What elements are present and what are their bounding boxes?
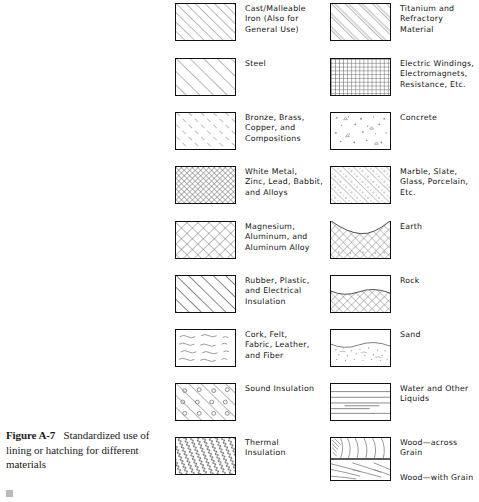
- legend-row: Thermal Insulation: [175, 437, 286, 475]
- swatch-label: Sound Insulation: [245, 383, 314, 394]
- swatch-steel: [175, 58, 236, 96]
- swatch-cork-felt-fabric: [175, 329, 236, 367]
- swatch-label: Marble, Slate, Glass, Porcelain, Etc.: [400, 166, 468, 198]
- swatch-magnesium-aluminum: [175, 221, 236, 259]
- swatch-label: Titanium and Refractory Material: [400, 3, 454, 35]
- legend-row: Sand: [330, 329, 421, 367]
- swatch-label: Electric Windings, Electromagnets, Resis…: [400, 58, 474, 90]
- swatch-label: Earth: [400, 221, 422, 232]
- swatch-label: White Metal, Zinc, Lead, Babbit, and All…: [245, 166, 323, 198]
- swatch-label: Bronze, Brass, Copper, and Compositions: [245, 112, 304, 144]
- legend-row: Earth: [330, 221, 422, 259]
- legend-row: Wood—across Grain Wood—with Grain: [330, 437, 479, 483]
- legend-row: White Metal, Zinc, Lead, Babbit, and All…: [175, 166, 323, 204]
- swatch-thermal-insulation: [175, 437, 236, 475]
- legend-row: Cast/Malleable Iron (Also for General Us…: [175, 3, 306, 41]
- wood-label-stack: Wood—across Grain Wood—with Grain: [400, 437, 479, 483]
- swatch-label: Cast/Malleable Iron (Also for General Us…: [245, 3, 306, 35]
- figure-number: Figure A-7: [6, 429, 55, 441]
- swatch-label: Thermal Insulation: [245, 437, 286, 459]
- swatch-label: Rubber, Plastic, and Electrical Insulati…: [245, 275, 310, 307]
- swatch-wood-grain: [330, 437, 391, 481]
- legend-row: Bronze, Brass, Copper, and Compositions: [175, 112, 304, 150]
- legend-row: Magnesium, Aluminum, and Aluminum Alloy: [175, 221, 310, 259]
- figure-body: Cast/Malleable Iron (Also for General Us…: [0, 0, 479, 502]
- page-corner-mark: [6, 490, 13, 497]
- swatch-label: Water and Other Liquids: [400, 383, 469, 405]
- legend-row: Rubber, Plastic, and Electrical Insulati…: [175, 275, 310, 313]
- swatch-bronze-brass-copper: [175, 112, 236, 150]
- swatch-label: Concrete: [400, 112, 437, 123]
- swatch-label: Steel: [245, 58, 266, 69]
- swatch-label: Magnesium, Aluminum, and Aluminum Alloy: [245, 221, 310, 253]
- legend-row: Electric Windings, Electromagnets, Resis…: [330, 58, 474, 96]
- legend-row: Water and Other Liquids: [330, 383, 469, 421]
- legend-row: Titanium and Refractory Material: [330, 3, 454, 41]
- swatch-marble-slate-glass: [330, 166, 391, 204]
- legend-row: Marble, Slate, Glass, Porcelain, Etc.: [330, 166, 468, 204]
- figure-caption: Figure A-7 Standardized use of lining or…: [6, 428, 168, 472]
- swatch-label-wood-across: Wood—across Grain: [400, 437, 479, 459]
- swatch-concrete: [330, 112, 391, 150]
- swatch-cast-malleable-iron: [175, 3, 236, 41]
- swatch-electric-windings: [330, 58, 391, 96]
- swatch-sound-insulation: [175, 383, 236, 421]
- swatch-label: Cork, Felt, Fabric, Leather, and Fiber: [245, 329, 309, 361]
- legend-row: Cork, Felt, Fabric, Leather, and Fiber: [175, 329, 309, 367]
- legend-row: Sound Insulation: [175, 383, 314, 421]
- swatch-white-metal-zinc-lead: [175, 166, 236, 204]
- swatch-water-and-liquids: [330, 383, 391, 421]
- swatch-rock: [330, 275, 391, 313]
- swatch-sand: [330, 329, 391, 367]
- swatch-label-wood-with: Wood—with Grain: [400, 472, 479, 483]
- swatch-earth: [330, 221, 391, 259]
- swatch-label: Rock: [400, 275, 420, 286]
- legend-row: Concrete: [330, 112, 437, 150]
- legend-row: Steel: [175, 58, 266, 96]
- legend-row: Rock: [330, 275, 420, 313]
- swatch-titanium-refractory: [330, 3, 391, 41]
- swatch-rubber-plastic-electrical: [175, 275, 236, 313]
- swatch-label: Sand: [400, 329, 421, 340]
